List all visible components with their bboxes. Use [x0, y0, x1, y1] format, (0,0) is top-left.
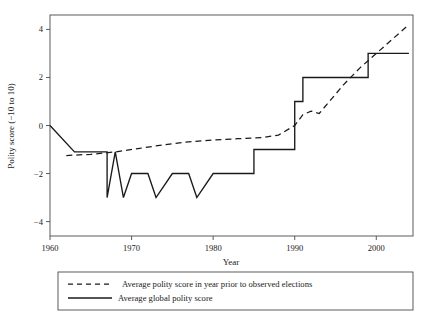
x-tick-label: 1980	[205, 243, 222, 253]
legend-label-election-prior-polity: Average polity score in year prior to ob…	[122, 279, 313, 289]
x-tick-label: 1990	[286, 243, 303, 253]
y-tick-label: −4	[34, 217, 44, 227]
x-tick-label: 1960	[42, 243, 59, 253]
series-line-election-prior-polity	[66, 25, 409, 156]
y-axis-ticks: 420−2−4	[34, 24, 50, 226]
y-axis-title: Polity score (−10 to 10)	[6, 83, 16, 169]
x-tick-label: 1970	[123, 243, 140, 253]
y-tick-label: −2	[34, 169, 43, 179]
chart-figure: 420−2−4 19601970198019902000 Polity scor…	[0, 0, 428, 321]
series-line-global-polity	[50, 53, 409, 197]
y-tick-label: 2	[39, 72, 43, 82]
plot-frame	[50, 15, 413, 236]
x-tick-label: 2000	[368, 243, 385, 253]
polity-score-line-chart: 420−2−4 19601970198019902000 Polity scor…	[0, 0, 428, 321]
y-tick-label: 0	[39, 121, 43, 131]
chart-legend: Average polity score in year prior to ob…	[58, 272, 413, 310]
legend-border	[58, 272, 413, 310]
legend-label-global-polity: Average global polity score	[118, 293, 213, 303]
x-axis-ticks: 19601970198019902000	[42, 236, 385, 253]
y-tick-label: 4	[39, 24, 44, 34]
x-axis-title: Year	[223, 257, 240, 267]
